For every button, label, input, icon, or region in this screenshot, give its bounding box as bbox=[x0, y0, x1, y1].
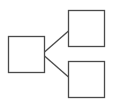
tree-diagram bbox=[0, 0, 114, 99]
edge-root-to-top bbox=[45, 31, 69, 52]
child-bottom-node bbox=[69, 62, 105, 98]
edge-root-to-bottom bbox=[45, 56, 69, 77]
child-top-node bbox=[69, 11, 105, 47]
root-node bbox=[9, 37, 45, 73]
